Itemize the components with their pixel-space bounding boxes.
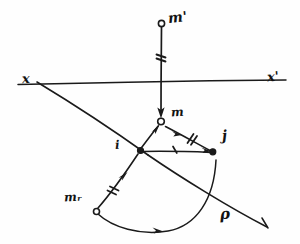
arc-mr-to-j	[98, 160, 216, 234]
edge-m-to-j	[166, 127, 212, 153]
node-m-prime	[158, 20, 164, 26]
node-m	[158, 118, 165, 125]
label-m-r: mᵣ	[64, 191, 82, 204]
node-m-r	[94, 209, 100, 215]
label-i: i	[115, 139, 120, 151]
edge-mprime-to-m	[157, 27, 166, 119]
axis-xx-prime	[18, 80, 286, 85]
label-x-right: x'	[266, 70, 279, 84]
diagram-svg	[0, 0, 300, 244]
node-i	[138, 148, 144, 154]
label-j: j	[222, 128, 228, 142]
node-j	[210, 149, 216, 155]
label-rho: ρ	[219, 207, 230, 223]
label-m: m	[171, 106, 185, 119]
label-m-prime: m'	[167, 9, 187, 25]
figure-canvas: m' x x' m i j mᵣ ρ	[0, 0, 300, 244]
edge-mr-to-i	[98, 154, 138, 208]
edge-i-to-j	[143, 147, 212, 154]
axis-rho-line	[37, 82, 268, 228]
label-x-left: x	[22, 72, 31, 86]
edge-i-to-m	[141, 124, 160, 149]
